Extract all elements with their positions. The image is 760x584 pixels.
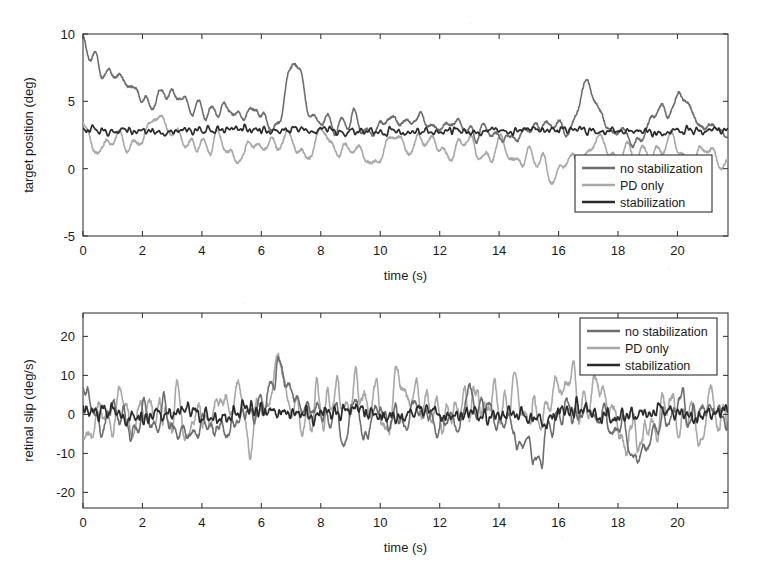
y-tick-label: 10 — [61, 368, 75, 383]
x-tick-label: 4 — [198, 515, 205, 530]
x-tick-label: 2 — [139, 243, 146, 258]
x-tick-label: 18 — [611, 243, 625, 258]
legend-label-stabilization: stabilization — [620, 196, 685, 210]
legend-label-pd-only: PD only — [625, 342, 670, 356]
y-axis-title: target position (deg) — [21, 77, 36, 193]
y-axis-title: retinal slip (deg/s) — [21, 359, 36, 462]
y-tick-label: 10 — [61, 27, 75, 42]
x-axis-title: time (s) — [384, 540, 427, 555]
panel-retinal-slip: 02468101214161820-20-1001020time (s)reti… — [0, 292, 760, 584]
y-tick-label: -10 — [56, 446, 75, 461]
x-tick-label: 10 — [373, 515, 387, 530]
legend-label-no-stabilization: no stabilization — [620, 162, 703, 176]
x-tick-label: 8 — [317, 515, 324, 530]
x-tick-label: 14 — [492, 243, 506, 258]
x-tick-label: 12 — [432, 243, 446, 258]
panel-target-position: 02468101214161820-50510time (s)target po… — [0, 0, 760, 292]
x-tick-label: 2 — [139, 515, 146, 530]
y-tick-label: 0 — [68, 162, 75, 177]
legend-label-no-stabilization: no stabilization — [625, 325, 708, 339]
chart-retinal-slip: 02468101214161820-20-1001020time (s)reti… — [0, 292, 760, 584]
y-tick-label: 5 — [68, 94, 75, 109]
x-tick-label: 16 — [551, 243, 565, 258]
x-tick-label: 20 — [670, 243, 684, 258]
x-tick-label: 4 — [198, 243, 205, 258]
x-tick-label: 20 — [670, 515, 684, 530]
x-tick-label: 10 — [373, 243, 387, 258]
x-tick-label: 16 — [551, 515, 565, 530]
x-tick-label: 0 — [79, 515, 86, 530]
y-tick-label: 0 — [68, 407, 75, 422]
legend: no stabilizationPD onlystabilization — [580, 318, 717, 375]
legend-label-stabilization: stabilization — [625, 359, 690, 373]
x-tick-label: 18 — [611, 515, 625, 530]
x-tick-label: 6 — [258, 515, 265, 530]
x-tick-label: 0 — [79, 243, 86, 258]
legend: no stabilizationPD onlystabilization — [575, 155, 712, 212]
chart-target-position: 02468101214161820-50510time (s)target po… — [0, 0, 760, 292]
figure-two-panel-time-series: 02468101214161820-50510time (s)target po… — [0, 0, 760, 584]
y-tick-label: -5 — [63, 229, 75, 244]
y-tick-label: -20 — [56, 485, 75, 500]
y-tick-label: 20 — [61, 329, 75, 344]
x-tick-label: 6 — [258, 243, 265, 258]
x-tick-label: 12 — [432, 515, 446, 530]
x-tick-label: 8 — [317, 243, 324, 258]
legend-label-pd-only: PD only — [620, 179, 665, 193]
x-tick-label: 14 — [492, 515, 506, 530]
x-axis-title: time (s) — [384, 268, 427, 283]
